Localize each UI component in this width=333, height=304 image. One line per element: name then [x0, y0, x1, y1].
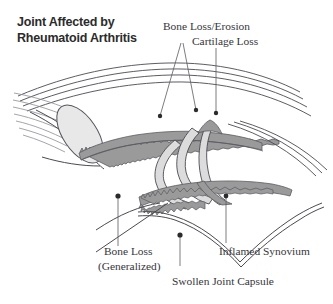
dot-swollen-joint-capsule	[177, 232, 182, 237]
label-bone-loss-erosion: Bone Loss/Erosion	[163, 20, 250, 32]
label-bone-loss-generalized-line1: Bone Loss	[104, 245, 153, 257]
dot-cartilage-loss	[214, 111, 218, 115]
label-bone-loss-generalized-line2: (Generalized)	[98, 260, 161, 273]
rheumatoid-arthritis-joint-diagram: Joint Affected by Rheumatoid Arthritis B…	[0, 0, 333, 304]
dot-inflamed-synovium	[224, 194, 229, 199]
dot-bone-loss-erosion-b	[194, 108, 198, 112]
right-capsule-arcs	[228, 121, 327, 176]
dot-bone-loss-generalized	[115, 193, 120, 198]
illustration-page: Joint Affected by Rheumatoid Arthritis B…	[0, 0, 333, 304]
label-inflamed-synovium: Inflamed Synovium	[219, 245, 310, 257]
swollen-joint-capsule-outline	[96, 203, 324, 267]
label-cartilage-loss: Cartilage Loss	[192, 35, 259, 47]
title-line-2: Rheumatoid Arthritis	[17, 31, 137, 45]
title-line-1: Joint Affected by	[17, 15, 115, 29]
label-swollen-joint-capsule: Swollen Joint Capsule	[172, 275, 274, 287]
dot-bone-loss-erosion-a	[158, 114, 162, 118]
